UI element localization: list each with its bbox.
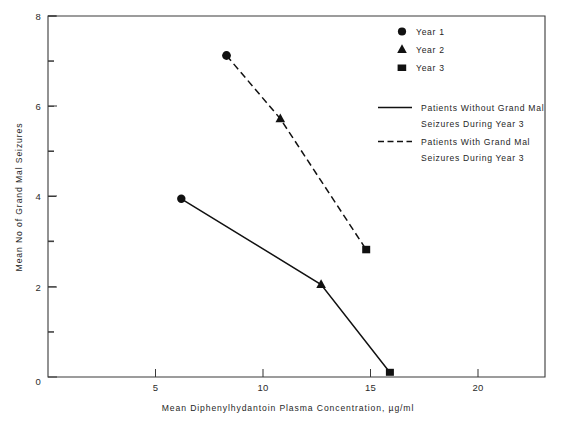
legend-label-year1: Year 1: [416, 27, 445, 37]
chart-figure: 8 6 4 2 0 5 10 15 20 Mean Diphenylhydant…: [0, 0, 565, 424]
seizure-line-chart: 8 6 4 2 0 5 10 15 20 Mean Diphenylhydant…: [0, 0, 565, 424]
x-tick-label-5: 5: [153, 382, 158, 393]
y-tick-label-2: 2: [36, 282, 41, 293]
y-axis-title: Mean No of Grand Mal Seizures: [14, 123, 24, 272]
legend-label-year2: Year 2: [416, 45, 445, 55]
legend-square-icon: [398, 65, 407, 72]
x-tick-label-20: 20: [473, 382, 484, 393]
y-tick-label-8: 8: [36, 11, 41, 22]
chart-background: [0, 0, 565, 424]
x-tick-label-10: 10: [258, 382, 269, 393]
legend-with-line2: Seizures During Year 3: [421, 153, 524, 163]
y-tick-label-0: 0: [36, 376, 41, 387]
legend-without-line1: Patients Without Grand Mal: [421, 103, 544, 113]
marker-circle-year1-without: [177, 195, 185, 203]
legend-label-year3: Year 3: [416, 63, 445, 73]
legend-markers: Year 1 Year 2 Year 3: [397, 27, 445, 73]
marker-square-year3-with: [362, 246, 370, 254]
legend-with-line1: Patients With Grand Mal: [421, 137, 530, 147]
y-tick-label-4: 4: [36, 191, 41, 202]
marker-square-year3-without: [386, 369, 394, 376]
marker-circle-year1-with: [222, 51, 231, 60]
legend-without-line2: Seizures During Year 3: [421, 119, 524, 129]
x-axis-title: Mean Diphenylhydantoin Plasma Concentrat…: [162, 403, 415, 413]
y-tick-label-6: 6: [36, 101, 41, 112]
legend-circle-icon: [398, 27, 406, 35]
x-tick-label-15: 15: [365, 382, 376, 393]
